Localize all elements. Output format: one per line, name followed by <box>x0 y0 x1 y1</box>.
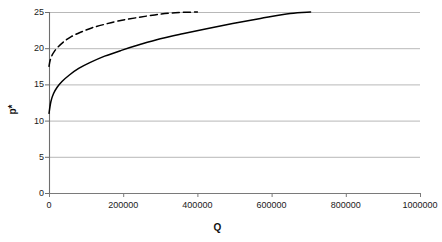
x-tick-label: 800000 <box>306 200 386 210</box>
x-tick-label: 1000000 <box>380 200 442 210</box>
y-tick-label: 10 <box>18 116 44 126</box>
x-tick-label: 600000 <box>232 200 312 210</box>
y-tick-label: 5 <box>18 152 44 162</box>
series-line-solid-curve <box>49 12 311 113</box>
gridlines-group <box>49 13 420 158</box>
x-tick-label: 0 <box>9 200 89 210</box>
x-axis-title: Q <box>0 222 435 233</box>
x-tick-label: 400000 <box>157 200 237 210</box>
y-tick-label: 25 <box>18 7 44 17</box>
axis-lines-group <box>49 12 420 194</box>
data-series-group <box>49 12 311 113</box>
axis-ticks-group <box>45 13 421 198</box>
y-axis-title: p* <box>7 96 18 124</box>
y-tick-label: 20 <box>18 43 44 53</box>
y-tick-label: 0 <box>18 188 44 198</box>
x-tick-label: 200000 <box>83 200 163 210</box>
series-line-dashed-curve <box>49 12 197 66</box>
y-tick-label: 15 <box>18 79 44 89</box>
